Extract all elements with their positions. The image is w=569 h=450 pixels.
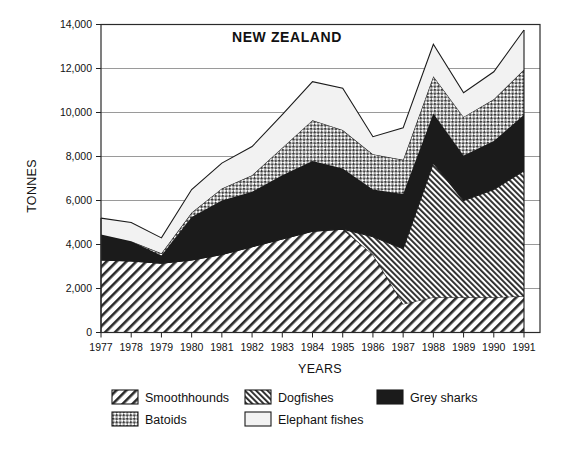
x-tick-label: 1983 <box>271 341 295 353</box>
x-tick-label: 1991 <box>512 341 536 353</box>
legend-item: Grey sharks <box>377 390 477 405</box>
y-tick-label: 8,000 <box>66 150 92 162</box>
legend-swatch-elephant-fishes <box>245 412 271 426</box>
legend-label: Grey sharks <box>410 391 477 405</box>
x-tick-label: 1989 <box>452 341 476 353</box>
x-tick-label: 1980 <box>180 341 204 353</box>
x-tick-label: 1977 <box>89 341 113 353</box>
x-tick-label: 1986 <box>361 341 385 353</box>
legend-swatch-dogfishes <box>245 390 271 404</box>
y-tick-label: 6,000 <box>66 194 92 206</box>
x-axis-label: YEARS <box>298 362 342 376</box>
figure-root: 02,0004,0006,0008,00010,00012,00014,000 … <box>0 0 569 450</box>
legend-label: Batoids <box>145 413 187 427</box>
x-tick-label: 1981 <box>210 341 234 353</box>
x-tick-label: 1982 <box>240 341 264 353</box>
y-tick-label: 10,000 <box>60 106 92 118</box>
legend-item: Smoothhounds <box>112 390 229 405</box>
x-tick-label: 1988 <box>422 341 446 353</box>
chart-title: NEW ZEALAND <box>232 29 342 45</box>
y-tick-label: 0 <box>86 326 92 338</box>
x-tick-label: 1979 <box>150 341 174 353</box>
y-tick-label: 4,000 <box>66 238 92 250</box>
y-tick-label: 12,000 <box>60 62 92 74</box>
legend-label: Elephant fishes <box>278 413 363 427</box>
x-tick-label: 1978 <box>120 341 144 353</box>
legend-label: Smoothhounds <box>145 391 229 405</box>
legend-swatch-batoids <box>112 412 138 426</box>
x-tick-label: 1990 <box>482 341 506 353</box>
y-tick-label: 14,000 <box>60 18 92 30</box>
x-tick-label: 1984 <box>301 341 325 353</box>
legend-item: Batoids <box>112 412 187 427</box>
legend-item: Dogfishes <box>245 390 334 405</box>
legend-swatch-smoothhounds <box>112 390 138 404</box>
y-axis-ticks: 02,0004,0006,0008,00010,00012,00014,000 <box>60 18 101 338</box>
x-axis-ticks: 1977197819791980198119821983198419851986… <box>89 333 536 353</box>
legend-label: Dogfishes <box>278 391 334 405</box>
legend: SmoothhoundsDogfishesGrey sharksBatoidsE… <box>112 390 477 427</box>
legend-item: Elephant fishes <box>245 412 363 427</box>
stacked-area-series <box>101 30 524 333</box>
y-axis-label: TONNES <box>25 159 39 213</box>
x-tick-label: 1987 <box>391 341 415 353</box>
legend-swatch-grey-sharks <box>377 390 403 404</box>
x-tick-label: 1985 <box>331 341 355 353</box>
y-tick-label: 2,000 <box>66 282 92 294</box>
